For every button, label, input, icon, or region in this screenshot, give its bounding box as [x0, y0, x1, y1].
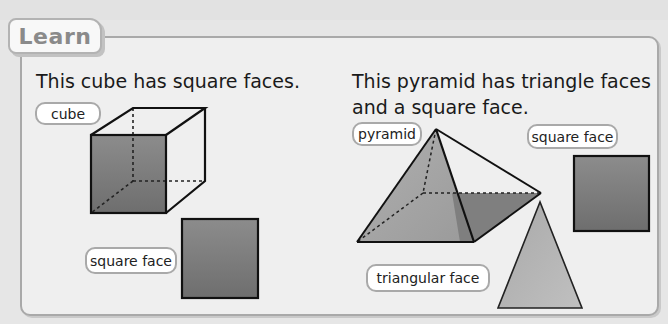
- pyramid-square-face: [574, 156, 649, 231]
- triangular-face: [498, 202, 582, 308]
- cube-label: cube: [35, 102, 101, 125]
- cube-square-face-label: square face: [85, 247, 177, 274]
- pyramid-label: pyramid: [352, 122, 422, 146]
- shapes-illustration: [0, 0, 668, 324]
- pyramid-square-face-label: square face: [527, 124, 618, 149]
- cube-square-face: [182, 219, 258, 298]
- cube-shape: [91, 108, 205, 213]
- triangular-face-label: triangular face: [366, 264, 490, 292]
